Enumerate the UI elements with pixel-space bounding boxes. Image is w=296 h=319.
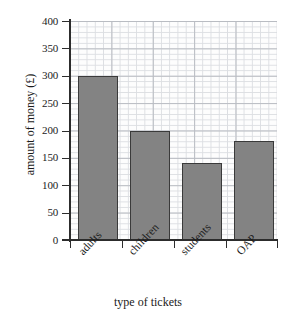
x-axis-title: type of tickets <box>0 296 296 309</box>
y-tick-300 <box>62 76 70 77</box>
y-tick-150 <box>62 158 70 159</box>
x-tick-2 <box>174 240 175 248</box>
y-tick-250 <box>62 103 70 104</box>
x-tick-3 <box>226 240 227 248</box>
y-tick-50 <box>62 213 70 214</box>
y-axis-title: amount of money (£) <box>24 35 37 215</box>
y-tick-350 <box>62 48 70 49</box>
x-tick-4 <box>277 240 278 248</box>
bar-adults <box>78 76 118 240</box>
y-tick-label-400: 400 <box>30 16 58 27</box>
y-tick-200 <box>62 131 70 132</box>
y-tick-400 <box>62 21 70 22</box>
bar-oap <box>234 141 274 240</box>
y-tick-100 <box>62 185 70 186</box>
x-tick-1 <box>122 240 123 248</box>
y-tick-0 <box>62 240 70 241</box>
bar-chart: 400 350 300 250 200 150 100 50 0 adults … <box>0 0 296 319</box>
y-tick-label-0: 0 <box>30 235 58 246</box>
x-tick-0 <box>70 240 71 248</box>
